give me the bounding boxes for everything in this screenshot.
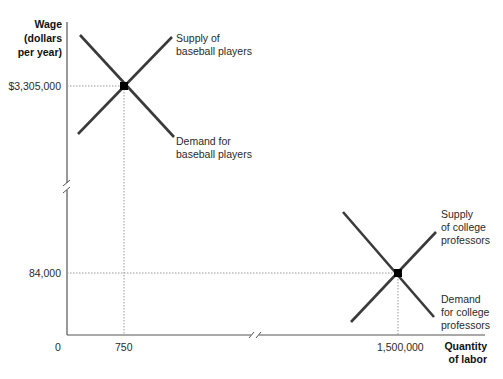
demand-professors-curve <box>343 212 434 317</box>
guide-lines <box>67 86 398 335</box>
supply-baseball-label: Supply of baseball players <box>176 32 252 58</box>
supply-professors-curve <box>351 232 436 322</box>
label-line: professors <box>441 319 490 332</box>
demand-baseball-label: Demand for baseball players <box>176 135 252 161</box>
y-tick-3305000: $3,305,000 <box>8 80 61 93</box>
label-line: for college <box>441 306 490 319</box>
demand-professors-label: Demand for college professors <box>441 293 490 332</box>
label-line: Demand <box>441 293 490 306</box>
label-line: Demand for <box>176 135 252 148</box>
x-tick-origin: 0 <box>55 341 61 354</box>
equilibrium-professors-point <box>394 269 402 277</box>
y-axis-title-line: per year) <box>18 45 62 59</box>
x-tick-1500000: 1,500,000 <box>377 341 424 354</box>
x-axis-title-line: Quantity <box>444 340 487 353</box>
y-axis-title: Wage (dollars per year) <box>18 17 62 59</box>
x-axis-title: Quantity of labor <box>444 340 487 366</box>
label-line: Supply <box>441 208 490 221</box>
equilibrium-baseball-point <box>120 82 128 90</box>
label-line: professors <box>441 234 490 247</box>
y-tick-84000: 84,000 <box>29 267 61 280</box>
x-axis-title-line: of labor <box>444 353 487 366</box>
y-axis-title-line: Wage <box>18 17 62 31</box>
supply-professors-label: Supply of college professors <box>441 208 490 247</box>
label-line: Supply of <box>176 32 252 45</box>
label-line: of college <box>441 221 490 234</box>
x-tick-750: 750 <box>115 341 133 354</box>
y-axis-title-line: (dollars <box>18 31 62 45</box>
label-line: baseball players <box>176 148 252 161</box>
label-line: baseball players <box>176 45 252 58</box>
